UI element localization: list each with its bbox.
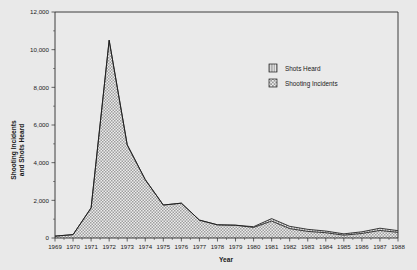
x-tick-label: 1980 bbox=[247, 243, 261, 250]
y-tick-label: 0 bbox=[46, 234, 50, 241]
y-tick-label: 2,000 bbox=[34, 197, 50, 204]
x-tick-label: 1977 bbox=[193, 243, 207, 250]
y-tick-label: 4,000 bbox=[34, 159, 50, 166]
y-tick-label: 6,000 bbox=[34, 121, 50, 128]
area-chart-svg: 02,0004,0006,0008,00010,00012,000 196919… bbox=[0, 0, 417, 270]
x-tick-label: 1988 bbox=[391, 243, 405, 250]
x-tick-label: 1971 bbox=[84, 243, 98, 250]
x-tick-label: 1972 bbox=[102, 243, 116, 250]
x-tick-label: 1975 bbox=[157, 243, 171, 250]
y-axis-title-line-2: and Shots Heard bbox=[18, 124, 25, 176]
x-tick-label: 1978 bbox=[211, 243, 225, 250]
legend-label-shots-heard: Shots Heard bbox=[285, 65, 321, 72]
x-tick-label: 1982 bbox=[283, 243, 297, 250]
x-tick-label: 1983 bbox=[301, 243, 315, 250]
x-axis-tick-labels: 1969197019711972197319741975197619771978… bbox=[48, 243, 405, 250]
x-tick-label: 1981 bbox=[265, 243, 279, 250]
x-tick-label: 1979 bbox=[229, 243, 243, 250]
y-axis-tick-labels: 02,0004,0006,0008,00010,00012,000 bbox=[30, 8, 49, 241]
chart-container: 02,0004,0006,0008,00010,00012,000 196919… bbox=[0, 0, 417, 270]
y-axis-title-line-1: Shooting Incidents bbox=[10, 120, 18, 180]
x-tick-label: 1973 bbox=[120, 243, 134, 250]
legend-swatch-shots-heard bbox=[269, 64, 277, 72]
x-tick-label: 1984 bbox=[319, 243, 333, 250]
x-tick-label: 1987 bbox=[373, 243, 387, 250]
x-axis-title: Year bbox=[219, 256, 233, 263]
y-tick-label: 10,000 bbox=[30, 46, 49, 53]
x-tick-label: 1985 bbox=[337, 243, 351, 250]
x-tick-label: 1974 bbox=[138, 243, 152, 250]
y-tick-label: 12,000 bbox=[30, 8, 49, 15]
x-tick-label: 1970 bbox=[66, 243, 80, 250]
y-axis-ticks bbox=[52, 12, 56, 238]
y-tick-label: 8,000 bbox=[34, 84, 50, 91]
x-axis-ticks bbox=[55, 238, 398, 242]
legend-label-shooting-incidents: Shooting Incidents bbox=[285, 80, 338, 88]
legend-swatch-shooting-incidents bbox=[269, 79, 277, 87]
x-tick-label: 1986 bbox=[355, 243, 369, 250]
x-tick-label: 1976 bbox=[175, 243, 189, 250]
x-tick-label: 1969 bbox=[48, 243, 62, 250]
y-axis-title: Shooting Incidents and Shots Heard bbox=[10, 120, 25, 180]
